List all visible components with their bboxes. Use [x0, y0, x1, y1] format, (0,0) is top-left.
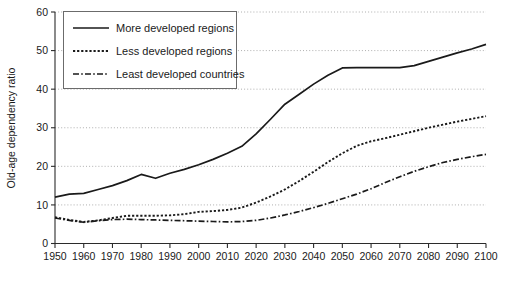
x-tick-label-2100: 2100 — [474, 250, 498, 262]
y-axis-title-group: Old-age dependency ratio — [5, 67, 17, 188]
y-tick-label-0: 0 — [42, 237, 48, 249]
old-age-dependency-ratio-chart: 0102030405060 19501960197019801990200020… — [0, 0, 505, 291]
x-tick-label-2020: 2020 — [244, 250, 268, 262]
legend-label-least-developed-countries: Least developed countries — [116, 68, 245, 80]
x-tick-label-1990: 1990 — [158, 250, 182, 262]
y-tick-label-60: 60 — [36, 6, 48, 18]
y-axis-ticks: 0102030405060 — [36, 6, 55, 250]
y-tick-label-40: 40 — [36, 83, 48, 95]
x-tick-label-2090: 2090 — [446, 250, 470, 262]
series-line-least-developed-countries — [55, 154, 486, 222]
y-axis-title: Old-age dependency ratio — [5, 67, 17, 188]
legend: More developed regions Less developed re… — [64, 12, 245, 89]
x-tick-label-2060: 2060 — [359, 250, 383, 262]
x-tick-label-1970: 1970 — [101, 250, 125, 262]
x-tick-label-1960: 1960 — [72, 250, 96, 262]
y-tick-label-10: 10 — [36, 199, 48, 211]
x-tick-label-1980: 1980 — [130, 250, 154, 262]
x-tick-label-2070: 2070 — [388, 250, 412, 262]
x-tick-label-1950: 1950 — [43, 250, 67, 262]
x-tick-label-2040: 2040 — [302, 250, 326, 262]
y-tick-label-30: 30 — [36, 121, 48, 133]
x-tick-label-2030: 2030 — [273, 250, 297, 262]
x-tick-label-2080: 2080 — [417, 250, 441, 262]
x-axis-ticks: 1950196019701980199020002010202020302040… — [43, 244, 498, 262]
x-tick-label-2050: 2050 — [331, 250, 355, 262]
legend-label-more-developed-regions: More developed regions — [116, 22, 235, 34]
x-tick-label-2010: 2010 — [216, 250, 240, 262]
y-tick-label-20: 20 — [36, 160, 48, 172]
legend-label-less-developed-regions: Less developed regions — [116, 45, 233, 57]
x-tick-label-2000: 2000 — [187, 250, 211, 262]
chart-canvas: 0102030405060 19501960197019801990200020… — [0, 0, 505, 291]
y-tick-label-50: 50 — [36, 44, 48, 56]
